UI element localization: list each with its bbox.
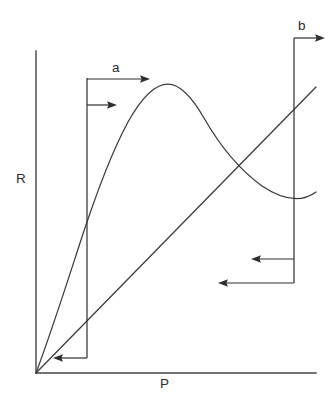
y-axis-label: R [16,172,26,186]
replacement-line [36,87,316,373]
left-bracket-annotation [53,75,150,362]
figure-container: R P a b [0,0,336,402]
annotation-label-a: a [112,61,120,75]
annotation-label-b: b [298,19,306,33]
plot-canvas [0,0,336,402]
axes-group [36,51,316,373]
x-axis-label: P [160,377,169,391]
series-group [36,84,316,373]
